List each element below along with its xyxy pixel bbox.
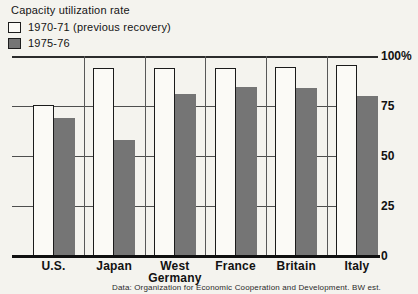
group-separator xyxy=(84,56,85,256)
y-axis-label-100: 100% xyxy=(381,49,412,63)
y-axis-label-50: 50 xyxy=(381,149,394,163)
group-separator xyxy=(327,56,328,256)
group-separator xyxy=(266,56,267,256)
bar-1970-71-france xyxy=(215,68,236,256)
bar-1975-76-west-germany xyxy=(175,94,196,256)
chart-panel: Capacity utilization rate 1970-71 (previ… xyxy=(0,0,418,294)
bar-1975-76-france xyxy=(236,87,257,256)
bar-1970-71-west-germany xyxy=(154,68,175,256)
plot-area: 100%7550250U.S.JapanWest GermanyFranceBr… xyxy=(0,0,418,294)
group-separator xyxy=(145,56,146,256)
bar-1970-71-britain xyxy=(275,67,296,256)
bar-1975-76-britain xyxy=(296,88,317,256)
group-separator xyxy=(205,56,206,256)
bar-1970-71-japan xyxy=(93,68,114,256)
bar-1970-71-u-s xyxy=(33,105,54,256)
bar-1975-76-u-s xyxy=(54,118,75,256)
y-axis-label-25: 25 xyxy=(381,199,394,213)
x-axis-baseline xyxy=(12,255,380,258)
y-axis-label-75: 75 xyxy=(381,99,394,113)
category-label-italy: Italy xyxy=(317,261,397,273)
bar-1975-76-italy xyxy=(357,96,378,256)
gridline-100 xyxy=(12,56,378,58)
bar-1970-71-italy xyxy=(336,65,357,256)
bar-1975-76-japan xyxy=(114,140,135,256)
